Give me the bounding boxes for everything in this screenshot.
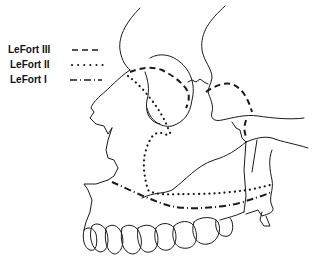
- pterygoid-outline: [246, 150, 273, 216]
- temporal-bone-outline: [202, 6, 225, 92]
- legend-item-lefort-ii: LeFort II: [10, 59, 49, 71]
- zygomatic-suture: [188, 79, 208, 84]
- dashed-line-swatch-icon: [72, 44, 102, 56]
- maxillary-body-outline: [142, 142, 246, 198]
- maxilla-lateral-outline: [246, 137, 308, 148]
- orbit-inner-rim: [145, 72, 160, 124]
- legend-label: LeFort II: [10, 59, 49, 71]
- frontal-bone-outline: [120, 8, 140, 70]
- pterygoid-plate-1: [244, 142, 246, 212]
- lefort-ii-fracture-line: [128, 76, 274, 194]
- pterygoid-plate-2: [252, 140, 257, 172]
- alveolar-process-outline: [220, 212, 244, 220]
- dash-dot-line-swatch-icon: [70, 74, 102, 86]
- dotted-line-swatch-icon: [70, 59, 106, 71]
- legend-item-lefort-i: LeFort I: [10, 74, 47, 86]
- legend-item-lefort-iii: LeFort III: [8, 44, 50, 56]
- legend-label: LeFort I: [10, 74, 47, 86]
- skull-drawing: [0, 0, 320, 264]
- anterior-maxilla-outline: [84, 180, 108, 230]
- lefort-i-fracture-line: [112, 182, 272, 208]
- maxillary-teeth: [83, 218, 233, 255]
- lefort-fracture-diagram: LeFort III LeFort II LeFort I: [0, 0, 320, 264]
- zygomatic-body-outline: [208, 92, 304, 121]
- nasal-aperture-outline: [106, 128, 118, 180]
- legend-label: LeFort III: [8, 44, 50, 56]
